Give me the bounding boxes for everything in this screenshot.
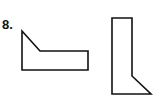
figure-canvas (0, 0, 164, 102)
shape-a-polygon (22, 31, 88, 70)
shape-b-polygon (112, 18, 151, 94)
